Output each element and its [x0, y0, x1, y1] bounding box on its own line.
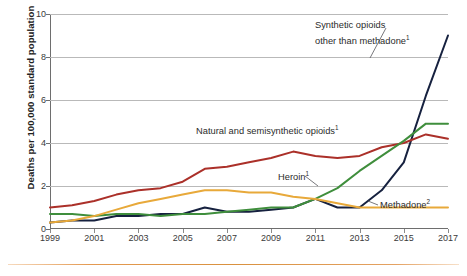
x-tick-mark — [271, 229, 272, 233]
y-tick-label: 10 — [36, 9, 46, 19]
x-tick-label: 2011 — [306, 233, 325, 243]
annotation-synthetic-opioids: Synthetic opioids other than methadone1 — [315, 20, 410, 47]
x-tick-mark — [50, 229, 51, 233]
x-tick-mark — [227, 229, 228, 233]
x-tick-label: 1999 — [40, 233, 60, 243]
x-tick-label: 2003 — [128, 233, 148, 243]
x-tick-mark — [404, 229, 405, 233]
annotation-heroin-label: Heroin — [278, 172, 305, 182]
annotation-natural-label: Natural and semisynthetic opioids — [196, 126, 335, 136]
annotation-methadone-label: Methadone — [380, 200, 427, 210]
x-tick-mark — [448, 229, 449, 233]
opioid-death-rate-chart: Deaths per 100,000 standard population 0… — [0, 0, 467, 276]
x-tick-label: 2001 — [84, 233, 104, 243]
x-tick-mark — [315, 229, 316, 233]
annotation-synthetic-footnote: 1 — [406, 34, 410, 41]
x-tick-label: 2013 — [350, 233, 370, 243]
x-tick-label: 2017 — [438, 233, 458, 243]
annotation-natural-semisynthetic: Natural and semisynthetic opioids1 — [196, 122, 339, 138]
annotation-synthetic-line2: other than methadone — [315, 36, 406, 46]
y-axis-title: Deaths per 100,000 standard population — [25, 0, 36, 198]
x-tick-label: 2009 — [261, 233, 281, 243]
leader-methadone — [368, 201, 378, 205]
x-tick-mark — [138, 229, 139, 233]
bottom-accent-rule — [8, 264, 459, 265]
annotation-heroin: Heroin1 — [278, 168, 309, 184]
x-tick-label: 2005 — [173, 233, 193, 243]
x-tick-mark — [94, 229, 95, 233]
annotation-natural-footnote: 1 — [335, 124, 339, 131]
x-tick-label: 2015 — [394, 233, 414, 243]
annotation-heroin-footnote: 1 — [305, 170, 309, 177]
annotation-methadone: Methadone2 — [380, 196, 430, 212]
x-tick-label: 2007 — [217, 233, 237, 243]
x-tick-mark — [183, 229, 184, 233]
annotation-methadone-footnote: 2 — [427, 198, 431, 205]
x-tick-mark — [360, 229, 361, 233]
annotation-synthetic-line1: Synthetic opioids — [315, 20, 385, 30]
